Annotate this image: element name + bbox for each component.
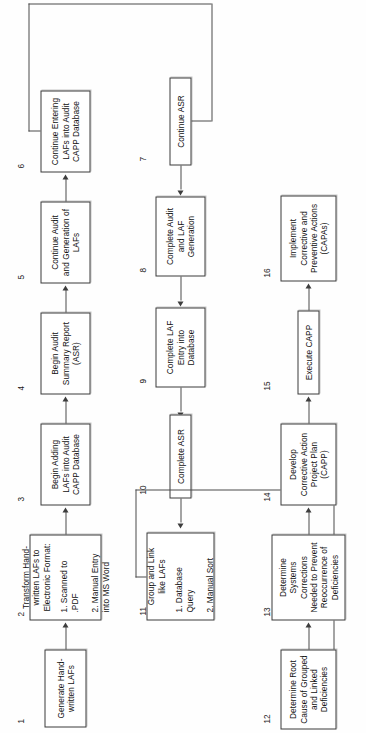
connector-14-to-15	[308, 399, 309, 423]
step-number-6: 6	[16, 163, 25, 168]
node-11-title: Group and Link like LAFs	[145, 547, 166, 604]
connector-12-to-13	[308, 625, 309, 649]
connector-13-to-14	[308, 510, 309, 534]
connector-7-to-8	[180, 165, 181, 189]
flowchart-stage: 1 Generate Hand- written LAFs 2 Transfor…	[0, 0, 366, 733]
step-number-4: 4	[16, 385, 25, 390]
connector-2-to-3	[65, 510, 66, 534]
arrowhead-12-to-13	[305, 622, 311, 627]
step-number-7: 7	[138, 156, 147, 161]
wrap-6-to-7-seg-right	[28, 3, 29, 131]
process-node-16[interactable]: Implement Corrective and Preventive Acti…	[280, 195, 336, 281]
node-12-title: Determine Root Cause of Grouped and Link…	[287, 655, 329, 724]
node-2-sublist: 1. Scanned to .PDF 2. Manual Entry into …	[58, 538, 110, 616]
process-node-1[interactable]: Generate Hand- written LAFs	[44, 649, 86, 727]
process-node-5[interactable]: Continue Audit and Generation of LAFs	[40, 201, 90, 283]
step-number-15: 15	[262, 381, 271, 390]
process-node-4[interactable]: Begin Audit Summary Report (ASR)	[40, 312, 90, 394]
step-number-8: 8	[138, 267, 147, 272]
node-5-title: Continue Audit and Generation of LAFs	[49, 208, 80, 275]
arrowhead-4-to-5	[62, 285, 68, 290]
process-node-13[interactable]: Determine Systems Corrections Needed to …	[271, 534, 345, 620]
node-4-title: Begin Audit Summary Report (ASR)	[49, 321, 80, 384]
node-6-title: Continue Entering LAFs into Audit CAPP D…	[49, 97, 80, 164]
step-number-3: 3	[16, 496, 25, 501]
node-2-title: Transform Hand- written LAFs to Electron…	[20, 543, 51, 611]
connector-15-to-16	[308, 286, 309, 310]
arrowhead-1-to-2	[62, 622, 68, 627]
step-number-13: 13	[262, 607, 271, 616]
node-15-title: Execute CAPP	[303, 324, 313, 379]
process-node-3[interactable]: Begin Adding LAFs into Audit CAPP Databa…	[40, 423, 90, 505]
connector-3-to-4	[65, 399, 66, 423]
connector-8-to-9	[180, 276, 181, 300]
node-13-title: Determine Systems Corrections Needed to …	[277, 542, 339, 612]
node-1-title: Generate Hand- written LAFs	[55, 658, 76, 718]
node-9-title: Complete LAF Entry into Database	[164, 320, 195, 374]
arrowhead-13-to-14	[305, 507, 311, 512]
process-node-14[interactable]: Develop Corrective Action Project Plan (…	[280, 423, 336, 505]
flow-row-1: 1 Generate Hand- written LAFs 2 Transfor…	[0, 0, 122, 733]
node-3-title: Begin Adding LAFs into Audit CAPP Databa…	[49, 434, 80, 495]
wrap-11-to-12-seg-up	[135, 576, 146, 577]
arrowhead-3-to-4	[62, 396, 68, 401]
step-number-2: 2	[16, 611, 25, 616]
step-number-16: 16	[262, 268, 271, 277]
arrowhead-2-to-3	[62, 507, 68, 512]
arrowhead-15-to-16	[305, 283, 311, 288]
process-node-8[interactable]: Complete Audit and LAF Generation	[155, 196, 205, 276]
step-number-9: 9	[138, 378, 147, 383]
wrap-11-to-12-seg-right	[135, 489, 136, 577]
connector-4-to-5	[65, 288, 66, 312]
arrowhead-14-to-15	[305, 396, 311, 401]
arrowhead-8-to-9	[177, 301, 183, 306]
step-number-1: 1	[16, 718, 25, 723]
arrowhead-5-to-6	[62, 174, 68, 179]
step-number-14: 14	[262, 492, 271, 501]
node-14-title: Develop Corrective Action Project Plan (…	[287, 432, 329, 496]
connector-1-to-2	[65, 625, 66, 649]
node-16-title: Implement Corrective and Preventive Acti…	[287, 203, 329, 272]
process-node-15[interactable]: Execute CAPP	[297, 310, 319, 394]
process-node-6[interactable]: Continue Entering LAFs into Audit CAPP D…	[40, 90, 90, 172]
node-10-title: Complete ASR	[175, 429, 185, 484]
process-node-11[interactable]: Group and Link like LAFs 1. Database Que…	[146, 532, 214, 620]
process-node-10[interactable]: Complete ASR	[169, 414, 191, 498]
flow-row-2: 7 Continue ASR 8 Complete Audit and LAF …	[122, 0, 244, 733]
step-number-5: 5	[16, 274, 25, 279]
wrap-6-to-7-seg-up	[28, 130, 40, 131]
node-7-title: Continue ASR	[175, 95, 185, 148]
flow-row-3: 12 Determine Root Cause of Grouped and L…	[244, 0, 366, 733]
arrowhead-7-to-8	[177, 190, 183, 195]
process-node-9[interactable]: Complete LAF Entry into Database	[155, 307, 205, 387]
process-node-7[interactable]: Continue ASR	[169, 77, 191, 165]
arrowhead-10-to-11	[177, 523, 183, 528]
diagram-canvas: 1 Generate Hand- written LAFs 2 Transfor…	[0, 0, 366, 733]
process-node-12[interactable]: Determine Root Cause of Grouped and Link…	[280, 649, 336, 729]
process-node-2[interactable]: Transform Hand- written LAFs to Electron…	[29, 534, 101, 620]
node-8-title: Complete Audit and LAF Generation	[164, 208, 195, 265]
connector-5-to-6	[65, 177, 66, 201]
connector-9-to-10	[180, 387, 181, 411]
step-number-12: 12	[262, 714, 271, 723]
connector-10-to-11	[180, 498, 181, 522]
node-11-sublist: 1. Database Query 2. Manual Sort	[173, 536, 215, 616]
